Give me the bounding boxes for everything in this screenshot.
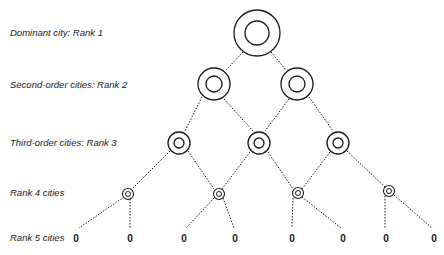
rank-5-city: 0 xyxy=(340,233,346,244)
rank-5-city: 0 xyxy=(73,233,79,244)
rank-5-city: 0 xyxy=(383,233,389,244)
rank-3-cities xyxy=(168,132,349,154)
rank-5-city: 0 xyxy=(181,233,187,244)
rank-5-cities: 0 0 0 0 0 0 0 0 xyxy=(73,233,437,244)
rank-5-city: 0 xyxy=(289,233,295,244)
rank-5-city: 0 xyxy=(127,233,133,244)
rank-4-cities xyxy=(123,186,395,200)
hierarchy-diagram: 0 0 0 0 0 0 0 0 xyxy=(0,0,444,255)
rank-5-city: 0 xyxy=(431,233,437,244)
rank-1-city xyxy=(234,10,280,56)
rank-2-cities xyxy=(198,68,313,100)
rank-5-city: 0 xyxy=(232,233,238,244)
